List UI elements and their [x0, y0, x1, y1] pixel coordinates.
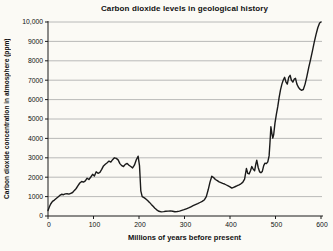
x-tick-label: 500: [271, 221, 283, 228]
y-tick-label: 2000: [28, 174, 43, 181]
plot-area: 010002000300040005000600070008000900010,…: [0, 0, 333, 251]
x-tick-label: 0: [47, 221, 51, 228]
y-tick-label: 10,000: [22, 18, 43, 25]
y-tick-label: 8000: [28, 57, 43, 64]
y-tick-label: 9000: [28, 38, 43, 45]
x-tick-label: 600: [316, 221, 328, 228]
y-tick-label: 1000: [28, 193, 43, 200]
y-tick-label: 7000: [28, 77, 43, 84]
y-tick-label: 3000: [28, 154, 43, 161]
x-tick-label: 200: [134, 221, 146, 228]
co2-line-series: [48, 22, 321, 212]
x-tick-label: 100: [89, 221, 101, 228]
y-tick-label: 6000: [28, 96, 43, 103]
y-tick-label: 0: [39, 212, 43, 219]
co2-history-chart: Carbon dioxide levels in geological hist…: [0, 0, 333, 251]
x-tick-label: 300: [180, 221, 192, 228]
y-tick-label: 5000: [28, 115, 43, 122]
y-tick-label: 4000: [28, 135, 43, 142]
x-tick-label: 400: [225, 221, 237, 228]
x-axis-label: Millions of years before present: [46, 233, 323, 242]
